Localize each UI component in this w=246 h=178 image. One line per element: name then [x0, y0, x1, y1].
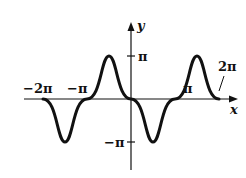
two-pi-pointer: [219, 76, 224, 91]
graph: y x −2π −π π 2π π −π: [0, 0, 246, 178]
y-axis-arrow-icon: [128, 22, 135, 31]
x-tick-label-neg-pi: −π: [67, 81, 88, 96]
x-tick-label-pi: π: [183, 81, 193, 96]
y-tick-label-neg-pi: −π: [104, 135, 125, 150]
y-axis-label: y: [136, 18, 146, 33]
y-tick-label-pi: π: [138, 49, 148, 64]
x-tick-label-neg-two-pi: −2π: [23, 81, 53, 96]
x-axis-label: x: [229, 102, 238, 117]
x-tick-label-two-pi: 2π: [218, 59, 237, 74]
